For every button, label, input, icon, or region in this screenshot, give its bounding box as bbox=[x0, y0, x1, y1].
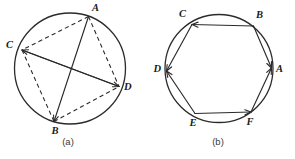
vertex-label-B: B bbox=[255, 9, 263, 20]
caption-a: (a) bbox=[62, 136, 74, 147]
panel-a: ACBD (a) bbox=[6, 2, 132, 147]
chord-C-D bbox=[22, 50, 119, 87]
vertex-label-F: F bbox=[245, 116, 253, 127]
panel-b-hexagon-edges bbox=[167, 25, 272, 114]
panel-a-vertex-labels: ACBD bbox=[6, 2, 132, 136]
dashed-A-D bbox=[89, 17, 120, 87]
vertex-label-C: C bbox=[6, 39, 14, 50]
figure-root: ACBD (a) BCDEFA (b) bbox=[0, 0, 295, 159]
vertex-label-D: D bbox=[123, 81, 132, 92]
vertex-label-A: A bbox=[91, 2, 99, 13]
vertex-label-B: B bbox=[50, 125, 58, 136]
panel-b-vertex-labels: BCDEFA bbox=[152, 8, 283, 128]
vertex-label-D: D bbox=[152, 63, 161, 74]
circle-b bbox=[165, 15, 273, 123]
caption-b: (b) bbox=[212, 136, 224, 147]
edge-B-to-C bbox=[192, 25, 254, 27]
edge-E-to-F bbox=[195, 112, 251, 114]
geometry-figure: ACBD (a) BCDEFA (b) bbox=[0, 0, 295, 159]
dashed-A-C bbox=[22, 17, 89, 51]
vertex-label-C: C bbox=[179, 8, 187, 19]
panel-a-dashed-edges bbox=[22, 17, 119, 122]
vertex-label-A: A bbox=[275, 63, 283, 74]
panel-b: BCDEFA (b) bbox=[152, 8, 283, 147]
panel-a-arrowheads bbox=[22, 50, 119, 122]
panel-a-solid-edges bbox=[22, 17, 119, 122]
vertex-label-E: E bbox=[188, 117, 196, 128]
